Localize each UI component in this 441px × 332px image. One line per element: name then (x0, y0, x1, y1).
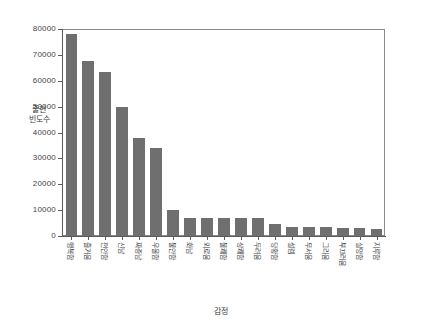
x-tick-label: 불안함 (169, 242, 176, 302)
x-tick-mark (224, 237, 225, 240)
x-tick-label: 짜증남 (135, 242, 142, 302)
y-tick-label: 30000 (0, 154, 56, 162)
y-tick-mark (58, 29, 62, 30)
x-tick-label: 신남 (118, 242, 125, 302)
x-tick-label: 화남 (186, 242, 193, 302)
bar-slot (283, 29, 300, 236)
x-tick-mark (326, 237, 327, 240)
x-tick-mark (122, 237, 123, 240)
x-tick-label: 행복함 (67, 242, 74, 302)
bar[interactable] (320, 227, 332, 236)
y-tick-mark (58, 158, 62, 159)
bar-slot (266, 29, 283, 236)
x-tick-mark (105, 237, 106, 240)
bar-slot (232, 29, 249, 236)
bar[interactable] (218, 218, 230, 236)
bar[interactable] (201, 218, 213, 236)
x-tick-label: 두려움 (254, 242, 261, 302)
y-tick-mark (58, 107, 62, 108)
bar[interactable] (252, 218, 264, 236)
bar-slot (131, 29, 148, 236)
y-tick-label: 80000 (0, 25, 56, 33)
bar-slot (80, 29, 97, 236)
bar[interactable] (303, 227, 315, 236)
y-tick-label: 0 (0, 232, 56, 240)
y-tick-mark (58, 55, 62, 56)
bar[interactable] (99, 72, 111, 236)
bar-slot (334, 29, 351, 236)
y-axis-title-line2: 빈도수 (20, 115, 58, 125)
x-tick-mark (360, 237, 361, 240)
x-tick-label: 설렘 (288, 242, 295, 302)
bar[interactable] (235, 218, 247, 236)
x-tick-label: 그리움 (322, 242, 329, 302)
x-tick-mark (173, 237, 174, 240)
x-tick-mark (207, 237, 208, 240)
x-tick-mark (156, 237, 157, 240)
y-tick-label: 50000 (0, 103, 56, 111)
x-tick-mark (190, 237, 191, 240)
y-tick-label: 20000 (0, 180, 56, 188)
x-axis-title: 감정 (0, 307, 441, 316)
x-tick-mark (309, 237, 310, 240)
x-tick-label: 즐거움 (84, 242, 91, 302)
bar-slot (63, 29, 80, 236)
x-tick-label: 외로움 (203, 242, 210, 302)
y-tick-label: 10000 (0, 206, 56, 214)
bar[interactable] (371, 229, 383, 237)
x-tick-label: 지루함 (373, 242, 380, 302)
y-tick-label: 70000 (0, 51, 56, 59)
bar[interactable] (133, 138, 145, 236)
y-tick-mark (58, 133, 62, 134)
y-tick-mark (58, 210, 62, 211)
bar[interactable] (116, 107, 128, 236)
x-tick-label: 불쾌함 (220, 242, 227, 302)
x-tick-label: 부끄러움 (339, 242, 346, 302)
bar-slot (368, 29, 385, 236)
x-tick-mark (377, 237, 378, 240)
bar-slot (165, 29, 182, 236)
x-tick-mark (258, 237, 259, 240)
y-tick-label: 60000 (0, 77, 56, 85)
bar[interactable] (337, 228, 349, 236)
bar-slot (300, 29, 317, 236)
bar[interactable] (354, 228, 366, 236)
x-tick-mark (292, 237, 293, 240)
bar[interactable] (150, 148, 162, 236)
bar-slot (182, 29, 199, 236)
x-tick-mark (275, 237, 276, 240)
bar-slot (97, 29, 114, 236)
x-tick-label: 편안함 (101, 242, 108, 302)
y-tick-mark (58, 236, 62, 237)
x-tick-mark (71, 237, 72, 240)
bar-slot (351, 29, 368, 236)
bar[interactable] (167, 210, 179, 236)
x-tick-label: 상쾌함 (237, 242, 244, 302)
y-tick-label: 40000 (0, 129, 56, 137)
bar[interactable] (66, 34, 78, 236)
bar-series (63, 29, 385, 236)
bar-slot (216, 29, 233, 236)
bar[interactable] (286, 227, 298, 236)
x-tick-mark (343, 237, 344, 240)
x-tick-mark (241, 237, 242, 240)
y-tick-mark (58, 81, 62, 82)
x-tick-label: 우울함 (152, 242, 159, 302)
bar[interactable] (184, 218, 196, 236)
bar[interactable] (269, 224, 281, 236)
bar-slot (317, 29, 334, 236)
x-tick-mark (139, 237, 140, 240)
bar-slot (148, 29, 165, 236)
x-tick-label: 당황함 (271, 242, 278, 302)
bar-chart-figure: 출현 빈도수 010000200003000040000500006000070… (0, 0, 441, 332)
bar-slot (249, 29, 266, 236)
bar-slot (199, 29, 216, 236)
x-tick-label: 실망함 (356, 242, 363, 302)
bar-slot (114, 29, 131, 236)
x-tick-mark (88, 237, 89, 240)
y-tick-mark (58, 184, 62, 185)
x-tick-label: 무서움 (305, 242, 312, 302)
bar[interactable] (82, 61, 94, 236)
